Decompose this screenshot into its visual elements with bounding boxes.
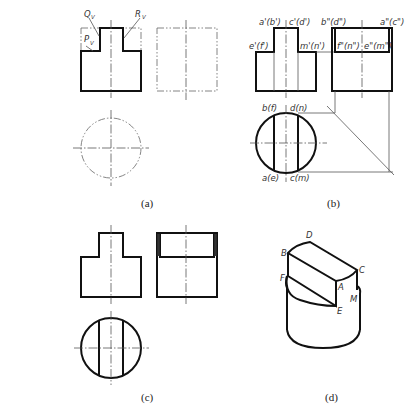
label-b-d-double-prime: b"(d") xyxy=(321,17,346,27)
side-view-cut-face xyxy=(160,233,214,257)
label-a-e: a(e) xyxy=(262,173,279,183)
label-D: D xyxy=(306,230,313,240)
label-d-n: d(n) xyxy=(290,103,307,113)
caption-c: (c) xyxy=(141,391,154,404)
label-C: C xyxy=(359,265,365,275)
cylinder-right-edge xyxy=(357,286,360,330)
panel-d: D B C F A M E (d) xyxy=(280,230,365,404)
label-a-b-prime: a'(b') xyxy=(259,17,281,27)
label-b-f: b(f) xyxy=(262,103,277,113)
label-B: B xyxy=(281,248,287,258)
label-e-f-prime: e'(f') xyxy=(249,41,269,51)
side-view-outline xyxy=(157,233,217,297)
label-R-sub: V xyxy=(142,14,147,20)
label-e-m-double-prime: e"(m") xyxy=(364,41,392,51)
panel-c: (c) xyxy=(74,225,217,404)
label-F: F xyxy=(280,273,285,283)
label-M: M xyxy=(350,294,358,304)
label-Q-sub: V xyxy=(91,14,96,20)
miter-line-45deg xyxy=(327,106,394,175)
label-a-c-double-prime: a"(c") xyxy=(380,17,404,27)
cylinder-left-edge xyxy=(286,276,287,330)
caption-b: (b) xyxy=(327,197,340,210)
caption-a: (a) xyxy=(141,197,154,210)
caption-d: (d) xyxy=(325,391,338,404)
label-f-n-double-prime: f"(n") xyxy=(337,41,360,51)
label-m-n-prime: m'(n') xyxy=(300,41,325,51)
tenon-top-face xyxy=(288,242,357,281)
label-Q: Q xyxy=(84,9,91,19)
label-E: E xyxy=(337,306,343,316)
label-c-m: c(m) xyxy=(290,173,310,183)
label-P-sub: V xyxy=(90,40,95,46)
label-c-d-prime: c'(d') xyxy=(289,17,310,27)
panel-a: Q V R V P V (a) xyxy=(73,9,217,210)
engineering-drawing: Q V R V P V (a) xyxy=(0,0,419,417)
label-R: R xyxy=(135,9,141,19)
label-A: A xyxy=(337,282,344,292)
phantom-side-outline xyxy=(157,28,217,91)
leader-Q xyxy=(89,18,99,36)
panel-b: a'(b') c'(d') e'(f') m'(n') b"(d") a"(c"… xyxy=(249,17,404,210)
cylinder-bottom-ellipse xyxy=(287,330,360,348)
